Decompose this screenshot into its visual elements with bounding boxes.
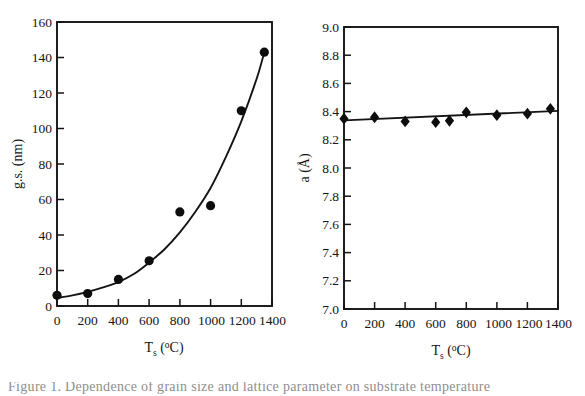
data-point <box>145 256 154 265</box>
data-point <box>83 289 92 298</box>
y-axis-ticks-right <box>344 27 351 309</box>
data-point <box>339 113 348 125</box>
y-tick-label: 160 <box>32 15 53 30</box>
x-tick-label: 1200 <box>229 313 256 328</box>
x-tick-label: 1000 <box>198 313 225 328</box>
x-tick-label: 1400 <box>259 313 286 328</box>
y-tick-label: 7.8 <box>322 189 339 204</box>
data-point <box>260 48 269 57</box>
y-tick-label: 40 <box>39 228 53 243</box>
data-point <box>52 291 61 300</box>
x-tick-label: 0 <box>341 316 348 331</box>
grain-size-plot-svg: 0 20 40 60 80 100 120 140 160 <box>0 0 292 372</box>
x-axis-title-left: Ts (oC) <box>144 340 184 358</box>
data-point <box>462 106 471 118</box>
y-tick-label: 7.4 <box>322 245 339 260</box>
y-tick-label: 20 <box>39 263 53 278</box>
y-tick-label: 9.0 <box>322 20 339 35</box>
lattice-parameter-plot-svg: 7.07.27.47.67.88.08.28.48.68.89.0 0 200 … <box>293 0 585 372</box>
figure-caption: Figure 1. Dependence of grain size and l… <box>8 382 490 395</box>
x-tick-label: 600 <box>139 313 160 328</box>
y-tick-label: 7.2 <box>322 273 339 288</box>
x-tick-label: 0 <box>54 313 61 328</box>
y-tick-label: 8.8 <box>322 48 339 63</box>
y-tick-label: 8.4 <box>322 104 339 119</box>
data-point <box>546 103 555 115</box>
data-point <box>492 109 501 121</box>
chart-panel-grain-size: 0 20 40 60 80 100 120 140 160 <box>0 0 292 372</box>
x-tick-label: 1200 <box>516 316 543 331</box>
x-tick-label: 600 <box>426 316 447 331</box>
data-point <box>431 116 440 128</box>
data-point <box>523 108 532 120</box>
y-axis-tick-labels-right: 7.07.27.47.67.88.08.28.48.68.89.0 <box>322 20 339 317</box>
plot-frame-right <box>344 27 558 309</box>
data-point <box>175 207 184 216</box>
x-axis-ticks-left <box>57 299 272 306</box>
fit-curve-left <box>57 52 264 298</box>
x-tick-label: 400 <box>108 313 129 328</box>
x-tick-label: 400 <box>395 316 416 331</box>
x-tick-label: 200 <box>364 316 385 331</box>
y-axis-tick-labels-left: 0 20 40 60 80 100 120 140 160 <box>32 15 53 314</box>
x-tick-label: 800 <box>170 313 191 328</box>
y-axis-ticks-left <box>57 22 64 306</box>
y-tick-label: 7.6 <box>322 217 339 232</box>
x-axis-title-unit: C) <box>170 340 184 356</box>
data-point <box>206 201 215 210</box>
x-tick-label: 800 <box>456 316 477 331</box>
figure-root: 0 20 40 60 80 100 120 140 160 <box>0 0 585 396</box>
y-tick-label: 60 <box>39 192 53 207</box>
data-markers-left <box>52 48 269 300</box>
x-axis-ticks-right <box>344 302 558 309</box>
data-point <box>237 106 246 115</box>
x-tick-label: 1000 <box>485 316 512 331</box>
y-tick-label: 100 <box>32 121 53 136</box>
data-point <box>114 275 123 284</box>
x-tick-label: 200 <box>78 313 99 328</box>
y-tick-label: 0 <box>45 299 52 314</box>
x-axis-title-unit: C) <box>457 343 471 359</box>
chart-panel-lattice-parameter: 7.07.27.47.67.88.08.28.48.68.89.0 0 200 … <box>293 0 585 372</box>
x-axis-tick-labels-left: 0 200 400 600 800 1000 1200 1400 <box>54 313 287 328</box>
y-tick-label: 7.0 <box>322 302 339 317</box>
y-axis-title-left: g.s. (nm) <box>10 139 26 190</box>
x-axis-tick-labels-right: 0 200 400 600 800 1000 1200 1400 <box>341 316 573 331</box>
y-tick-label: 8.2 <box>322 132 339 147</box>
x-axis-title-right: Ts (oC) <box>431 343 471 361</box>
y-tick-label: 80 <box>39 157 53 172</box>
plot-frame-left <box>57 22 272 306</box>
y-tick-label: 120 <box>32 86 53 101</box>
y-tick-label: 140 <box>32 50 53 65</box>
y-axis-title-right: a (Å) <box>297 153 313 182</box>
y-tick-label: 8.6 <box>322 76 339 91</box>
caption-strip: Figure 1. Dependence of grain size and l… <box>0 382 585 396</box>
x-tick-label: 1400 <box>545 316 572 331</box>
data-point <box>370 111 379 123</box>
y-tick-label: 8.0 <box>322 161 339 176</box>
